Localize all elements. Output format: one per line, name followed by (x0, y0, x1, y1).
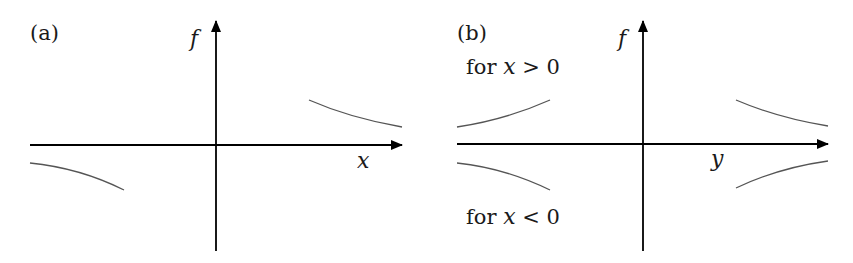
panel-b: (b) f y for x > 0 for x < 0 (457, 21, 828, 251)
f-axis-label: f (188, 26, 202, 51)
curve-lower-left (457, 163, 550, 190)
panel-a: (a) f x (30, 21, 402, 251)
panel-a-label: (a) (30, 21, 59, 45)
curve-upper-left (457, 100, 550, 127)
figure-svg: (a) f x (b) f y for x > 0 for x < 0 (0, 0, 853, 263)
curve-negative-branch (30, 163, 124, 190)
panel-b-label: (b) (457, 21, 487, 45)
f-axis-label: f (616, 26, 630, 51)
annotation-x-positive: for x > 0 (466, 54, 560, 79)
figure: (a) f x (b) f y for x > 0 for x < 0 (0, 0, 853, 263)
curve-upper-right (736, 100, 828, 126)
curve-lower-right (736, 161, 828, 188)
curve-positive-branch (309, 100, 402, 127)
y-axis-label: y (710, 146, 724, 171)
x-axis-label: x (357, 148, 370, 173)
annotation-x-negative: for x < 0 (466, 204, 560, 229)
